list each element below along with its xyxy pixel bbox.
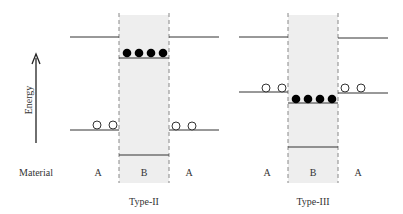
type-iii-material-a-left: A xyxy=(263,167,270,178)
type-iii-title: Type-III xyxy=(296,196,329,207)
panel-type-ii xyxy=(70,13,219,183)
electron-icon xyxy=(147,49,156,58)
electron-icon xyxy=(135,49,144,58)
type-ii-title: Type-II xyxy=(129,196,159,207)
electron-icon xyxy=(304,95,313,104)
diagram-canvas xyxy=(0,0,403,214)
electron-icon xyxy=(328,95,337,104)
type-ii-material-b: B xyxy=(141,167,148,178)
hole-icon xyxy=(93,121,101,129)
hole-icon xyxy=(262,84,270,92)
hole-icon xyxy=(172,122,180,130)
hole-icon xyxy=(278,84,286,92)
type-ii-material-a-left: A xyxy=(94,167,101,178)
electron-icon xyxy=(316,95,325,104)
energy-axis-label: Energy xyxy=(23,86,34,115)
type-ii-material-a-right: A xyxy=(185,167,192,178)
material-b-region xyxy=(119,15,169,183)
type-iii-material-b: B xyxy=(310,167,317,178)
material-row-label: Material xyxy=(19,167,53,178)
electron-icon xyxy=(292,95,301,104)
band-alignment-diagram: Energy Material A B A Type-II A B A Type… xyxy=(0,0,403,214)
hole-icon xyxy=(188,122,196,130)
panel-type-iii xyxy=(239,13,388,183)
hole-icon xyxy=(109,121,117,129)
electron-icon xyxy=(123,49,132,58)
hole-icon xyxy=(341,84,349,92)
electron-icon xyxy=(159,49,168,58)
type-iii-material-a-right: A xyxy=(354,167,361,178)
hole-icon xyxy=(357,84,365,92)
